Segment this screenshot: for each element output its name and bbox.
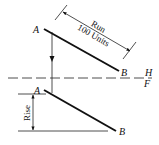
run-extension-line-start [55,5,67,20]
fold-label-h: H [144,67,153,78]
fold-label-f: F [143,78,151,89]
diagram-canvas: A B Run 100 Units H F A B Rise [0,0,159,145]
top-view-label-b: B [121,67,127,78]
rise-label: Rise [22,105,32,121]
projection-arrow-icon [50,56,55,62]
front-view-label-b: B [119,126,125,137]
top-view-line-ab [44,29,119,71]
top-view-label-a: A [32,24,40,35]
front-view-line-ab [44,90,116,131]
